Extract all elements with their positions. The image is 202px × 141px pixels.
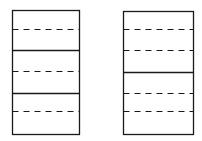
diagram-canvas [0, 0, 202, 141]
right-panel [124, 12, 194, 135]
left-panel [13, 11, 80, 135]
